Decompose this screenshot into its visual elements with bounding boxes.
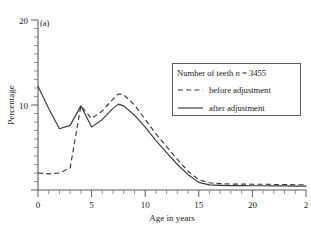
x-tick-label-0: 0 xyxy=(36,200,41,210)
legend-label-before: before adjustment xyxy=(209,85,271,95)
legend-title-prefix: Number of teeth xyxy=(177,68,235,78)
y-tick-label-10: 10 xyxy=(19,101,29,111)
chart-svg: (a) 20 xyxy=(0,0,311,240)
legend-title-suffix: = 3455 xyxy=(240,68,266,78)
x-tick-label-15: 15 xyxy=(194,200,204,210)
legend-label-after: after adjustment xyxy=(209,103,265,113)
x-tick-label-20: 20 xyxy=(248,200,258,210)
x-tick-label-25: 2 xyxy=(304,200,309,210)
figure-panel-a: (a) 20 xyxy=(0,0,311,240)
legend: Number of teeth n = 3455 before adjustme… xyxy=(173,64,301,116)
y-axis-ticks xyxy=(31,20,38,190)
y-tick-label-20: 20 xyxy=(19,16,29,26)
x-tick-label-5: 5 xyxy=(89,200,94,210)
x-axis-title: Age in years xyxy=(149,213,195,223)
panel-label: (a) xyxy=(40,18,50,28)
legend-title: Number of teeth n = 3455 xyxy=(177,68,266,78)
x-tick-label-10: 10 xyxy=(141,200,151,210)
x-axis-ticks xyxy=(38,190,306,197)
y-axis-title: Percentage xyxy=(6,85,16,124)
